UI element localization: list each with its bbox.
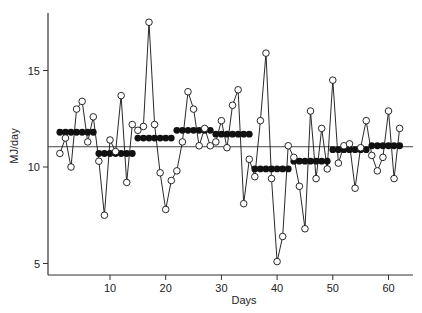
daily-point	[330, 77, 337, 84]
daily-point	[252, 173, 259, 180]
weekly-mean-dot	[129, 150, 136, 157]
daily-point	[224, 144, 231, 151]
daily-point	[185, 88, 192, 95]
y-tick-label: 5	[34, 258, 40, 270]
y-tick-label: 15	[28, 65, 40, 77]
daily-point	[201, 125, 208, 132]
y-tick-label: 10	[28, 161, 40, 173]
daily-point	[146, 19, 153, 26]
daily-point	[274, 258, 281, 265]
daily-point	[162, 206, 169, 213]
daily-point	[335, 160, 342, 167]
x-axis-title: Days	[231, 294, 257, 306]
x-tick-label: 10	[104, 282, 116, 294]
daily-series-markers	[57, 19, 403, 265]
daily-point	[307, 108, 314, 115]
daily-point	[123, 179, 130, 186]
daily-point	[84, 139, 91, 146]
daily-point	[263, 50, 270, 57]
y-axis-title: MJ/day	[8, 128, 20, 164]
daily-point	[346, 141, 353, 148]
daily-point	[96, 158, 103, 165]
axes: 51015102030405060	[28, 13, 413, 294]
daily-point	[140, 123, 147, 130]
daily-point	[268, 175, 275, 182]
daily-point	[107, 137, 114, 144]
daily-point	[79, 98, 86, 105]
weekly-mean-dot	[324, 158, 331, 165]
daily-point	[374, 168, 381, 175]
daily-point	[257, 117, 264, 124]
daily-point	[285, 142, 292, 149]
daily-point	[318, 125, 325, 132]
daily-point	[118, 92, 125, 99]
x-tick-label: 60	[382, 282, 394, 294]
daily-point	[90, 114, 97, 121]
daily-point	[391, 175, 398, 182]
x-tick-label: 30	[215, 282, 227, 294]
daily-point	[129, 121, 136, 128]
weekly-mean-dot	[246, 131, 253, 138]
daily-point	[157, 169, 164, 176]
daily-point	[179, 139, 186, 146]
daily-point	[385, 108, 392, 115]
daily-point	[190, 106, 197, 113]
chart: 51015102030405060 Days MJ/day	[0, 0, 422, 313]
daily-point	[296, 183, 303, 190]
daily-point	[235, 87, 242, 94]
x-tick-label: 40	[271, 282, 283, 294]
daily-point	[62, 135, 69, 142]
daily-point	[291, 154, 298, 161]
daily-point	[229, 102, 236, 109]
daily-point	[324, 166, 331, 173]
daily-point	[357, 144, 364, 151]
daily-point	[380, 154, 387, 161]
daily-point	[363, 117, 370, 124]
daily-point	[313, 175, 320, 182]
x-tick-label: 50	[327, 282, 339, 294]
daily-point	[246, 156, 253, 163]
daily-point	[196, 142, 203, 149]
daily-point	[101, 212, 108, 219]
daily-point	[112, 148, 119, 155]
daily-point	[168, 177, 175, 184]
daily-point	[73, 106, 80, 113]
daily-point	[352, 185, 359, 192]
weekly-mean-dot	[285, 166, 292, 173]
daily-point	[151, 121, 158, 128]
daily-point	[368, 152, 375, 159]
daily-point	[218, 117, 225, 124]
daily-point	[302, 225, 309, 232]
daily-point	[279, 233, 286, 240]
daily-point	[396, 125, 403, 132]
weekly-mean-dot	[396, 142, 403, 149]
daily-point	[57, 150, 64, 157]
daily-point	[240, 200, 247, 207]
daily-point	[174, 168, 181, 175]
weekly-mean-dot	[168, 135, 175, 142]
x-tick-label: 20	[160, 282, 172, 294]
weekly-mean-dot	[90, 129, 97, 136]
daily-point	[68, 164, 75, 171]
daily-point	[213, 139, 220, 146]
